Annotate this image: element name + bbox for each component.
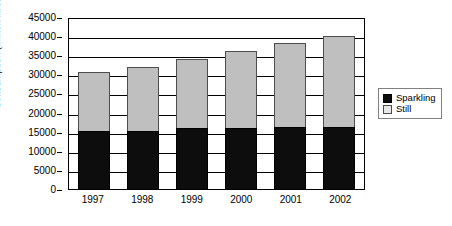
bar-segment-still (274, 43, 306, 127)
legend-item-still: Still (383, 104, 436, 114)
x-axis-tick-label: 1999 (176, 193, 208, 209)
y-axis-tick-label: 0 (50, 185, 56, 195)
y-axis-tick-label: 30000 (28, 70, 56, 80)
bar-segment-sparkling (78, 131, 110, 189)
y-axis-tick-mark (57, 152, 62, 153)
y-axis-tick-label: 10000 (28, 147, 56, 157)
x-axis-tick-labels: 199719981999200020012002 (68, 193, 365, 209)
y-axis-tick-mark (57, 75, 62, 76)
bar-group (127, 19, 159, 189)
y-axis-tick-labels: 4500040000350003000025000200001500010000… (0, 18, 62, 190)
y-axis-tick-mark (57, 56, 62, 57)
y-axis-tick-label: 5000 (34, 166, 56, 176)
y-axis-tick-mark (57, 37, 62, 38)
y-axis-tick-label: 45000 (28, 13, 56, 23)
bar-series-container (69, 19, 364, 189)
legend-item-label: Sparkling (396, 93, 436, 103)
bar-group (176, 19, 208, 189)
bar-segment-still (78, 72, 110, 130)
y-axis-tick-label: 20000 (28, 109, 56, 119)
y-axis-tick-mark (57, 94, 62, 95)
bar-group (274, 19, 306, 189)
legend-item-label: Still (396, 104, 411, 114)
y-axis-tick-mark (57, 114, 62, 115)
sparkling-swatch-icon (383, 94, 392, 103)
still-swatch-icon (383, 105, 392, 114)
bar-group (323, 19, 355, 189)
bar-segment-still (176, 59, 208, 128)
bar-segment-sparkling (225, 128, 257, 189)
y-axis-tick-label: 35000 (28, 51, 56, 61)
y-axis-tick-label: 15000 (28, 128, 56, 138)
x-axis-tick-label: 1997 (77, 193, 109, 209)
x-axis-tick-label: 2000 (225, 193, 257, 209)
y-axis-tick-mark (57, 18, 62, 19)
bar-segment-still (127, 67, 159, 131)
x-axis-tick-label: 1998 (126, 193, 158, 209)
y-axis-tick-mark (57, 133, 62, 134)
y-axis-tick-mark (57, 171, 62, 172)
legend: Sparkling Still (378, 88, 442, 119)
y-axis-tick-label: 40000 (28, 32, 56, 42)
bar-segment-sparkling (127, 131, 159, 189)
bar-segment-sparkling (176, 128, 208, 189)
bar-group (225, 19, 257, 189)
bar-segment-sparkling (274, 127, 306, 189)
y-axis-tick-mark (57, 190, 62, 191)
bar-segment-still (323, 36, 355, 127)
x-axis-tick-label: 2001 (275, 193, 307, 209)
x-axis-tick-label: 2002 (324, 193, 356, 209)
bar-segment-still (225, 51, 257, 127)
bar-chart: Consumption (million litres) 45000400003… (0, 0, 452, 226)
plot-area (68, 18, 365, 190)
bar-group (78, 19, 110, 189)
bar-segment-sparkling (323, 127, 355, 189)
y-axis-tick-label: 25000 (28, 89, 56, 99)
legend-item-sparkling: Sparkling (383, 93, 436, 103)
